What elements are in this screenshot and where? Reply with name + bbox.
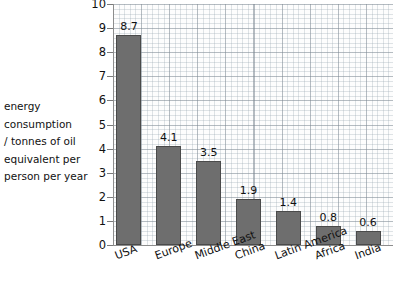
bar-value-label: 0.6 [359,216,377,229]
bar-chart: energy consumption / tonnes of oil equiv… [0,0,393,294]
y-axis-tick [107,245,113,246]
y-axis-tick [107,197,113,198]
bar-value-label: 1.9 [240,184,258,197]
y-axis-tick [107,173,113,174]
bar-value-label: 1.4 [280,196,298,209]
y-axis-tick-label: 5 [99,119,106,131]
y-axis-tick [107,100,113,101]
y-axis-tick [107,28,113,29]
bar-europe [156,146,181,245]
y-axis-tick-labels: 012345678910 [84,0,106,246]
bar-value-label: 4.1 [160,131,178,144]
y-axis-tick [107,149,113,150]
y-axis-tick-label: 0 [99,239,106,251]
y-axis-tick-label: 1 [99,215,106,227]
y-axis-tick-label: 8 [99,46,106,58]
bars-group: 8.74.13.51.91.40.80.6 [114,4,393,245]
y-axis-tick-label: 6 [99,94,106,106]
bar-value-label: 8.7 [120,20,138,33]
y-axis-tick-label: 2 [99,191,106,203]
bar-value-label: 3.5 [200,146,218,159]
y-axis-tick [107,4,113,5]
y-axis-tick-label: 3 [99,167,106,179]
y-axis-tick [107,52,113,53]
bar-value-label: 0.8 [319,211,337,224]
y-axis-tick-label: 10 [91,0,106,10]
y-axis-tick [107,125,113,126]
x-axis-tick-labels: USAEuropeMiddle EastChinaLatin AmericaAf… [114,248,393,294]
y-axis-tick [107,221,113,222]
y-axis-tick-label: 9 [99,22,106,34]
bar-usa [116,35,141,245]
y-axis-tick-label: 4 [99,143,106,155]
y-axis-tick [107,76,113,77]
bar-middle-east [196,161,221,245]
y-axis-tick-label: 7 [99,70,106,82]
